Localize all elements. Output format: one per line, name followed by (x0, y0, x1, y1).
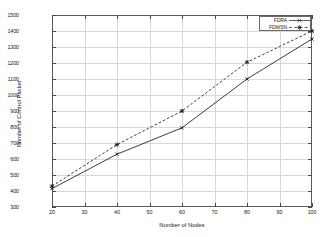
legend-entry-fdwsn: FDWSN (260, 24, 312, 31)
data-series-layer (0, 0, 334, 237)
series-markers (50, 37, 313, 190)
series-fdwsn (50, 29, 314, 188)
legend-label-fdwsn: FDWSN (260, 24, 287, 30)
chart-figure: 3004005006007008009001000110012001300140… (0, 0, 334, 237)
series-markers (50, 29, 314, 188)
series-line (52, 39, 312, 189)
legend-label-fdra: FDRA (260, 17, 287, 23)
legend-box: FDRA FDWSN (259, 16, 311, 31)
series-fdra (50, 37, 313, 190)
legend-symbol-fdwsn (288, 24, 311, 31)
series-line (52, 31, 312, 186)
